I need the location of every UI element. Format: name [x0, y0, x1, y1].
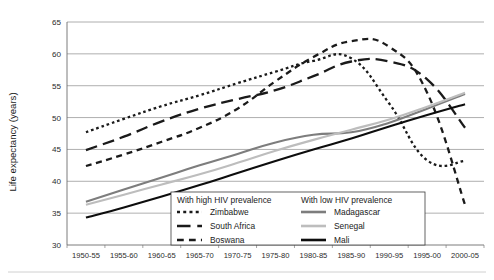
y-axis-tick-label: 65 — [52, 18, 62, 27]
x-axis-tick-label: 1990-95 — [375, 251, 403, 260]
x-axis-tick-label: 1995-00 — [413, 251, 441, 260]
series-line-madagascar — [86, 94, 465, 202]
x-axis-tick-label: 1955-60 — [110, 251, 138, 260]
legend-label-mali: Mali — [334, 235, 349, 245]
series-paths-group — [86, 39, 465, 218]
figure-container: Life expectancy (years) 3035404550556065… — [0, 0, 494, 280]
series-line-boswana — [86, 39, 465, 205]
legend-label-zimbabwe: Zimbabwe — [210, 207, 249, 217]
y-axis-tick-label: 60 — [52, 50, 62, 59]
y-axis-tick-label: 40 — [52, 177, 62, 186]
y-axis-tick-label: 45 — [52, 145, 62, 154]
y-axis-tick-label: 50 — [52, 114, 62, 123]
x-axis-tick-label: 1960-65 — [148, 251, 176, 260]
y-axis-tick-label: 35 — [52, 209, 62, 218]
legend-label-south-africa: South Africa — [210, 221, 256, 231]
x-axis-tick-label: 1975-80 — [262, 251, 290, 260]
x-axis-tick-label: 1965-70 — [186, 251, 214, 260]
y-axis-tick-label: 30 — [52, 241, 62, 250]
x-axis-tick-label: 1985-90 — [337, 251, 365, 260]
legend-label-boswana: Boswana — [210, 235, 245, 245]
life-expectancy-line-chart: Life expectancy (years) 3035404550556065… — [0, 0, 494, 280]
y-axis-tick-label: 55 — [52, 82, 62, 91]
x-axis-tick-label: 1970-75 — [224, 251, 252, 260]
legend-heading-high-prevalence: With high HIV prevalence — [177, 195, 272, 205]
y-axis-title-group: Life expectancy (years) — [7, 92, 18, 191]
x-axis-tick-label: 1980-85 — [299, 251, 327, 260]
series-line-senegal — [86, 93, 465, 205]
y-axis-title: Life expectancy (years) — [7, 92, 18, 191]
x-axis-tick-labels: 1950-551955-601960-651965-701970-751975-… — [72, 251, 479, 260]
y-axis-tick-labels: 3035404550556065 — [52, 18, 62, 250]
legend-heading-low-prevalence: With low HIV prevalence — [301, 195, 393, 205]
legend-label-senegal: Senegal — [334, 221, 365, 231]
legend-label-madagascar: Madagascar — [334, 207, 380, 217]
chart-legend: With high HIV prevalence With low HIV pr… — [171, 192, 425, 245]
x-axis-tick-label: 2000-05 — [451, 251, 479, 260]
x-axis-tick-label: 1950-55 — [72, 251, 100, 260]
